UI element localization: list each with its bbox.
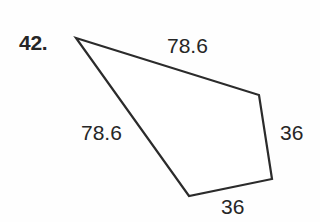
quadrilateral-outline bbox=[76, 38, 272, 196]
side-label-top: 78.6 bbox=[167, 35, 208, 56]
geometry-problem-figure: 42. 78.6 78.6 36 36 bbox=[0, 0, 320, 222]
quadrilateral-shape bbox=[0, 0, 320, 222]
side-label-bottom: 36 bbox=[221, 196, 244, 217]
side-label-right: 36 bbox=[280, 122, 303, 143]
side-label-left: 78.6 bbox=[81, 122, 122, 143]
problem-number: 42. bbox=[19, 32, 47, 53]
